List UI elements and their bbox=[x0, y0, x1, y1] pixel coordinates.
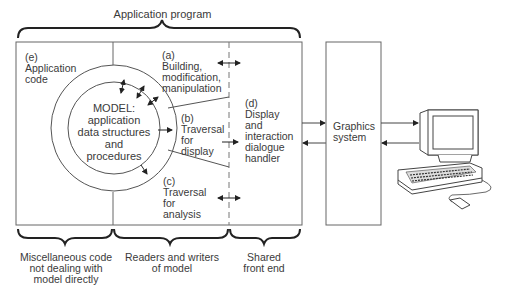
model-line: procedures bbox=[74, 150, 154, 162]
bottom-line: front end bbox=[234, 263, 294, 274]
region-e-label: (e) Application code bbox=[25, 52, 76, 85]
model-line: and bbox=[74, 138, 154, 150]
bottom-label-misc: Miscellaneous code not dealing with mode… bbox=[10, 252, 122, 285]
graphics-system-label: Graphics system bbox=[333, 121, 375, 143]
region-b-label: (b) Traversal for display bbox=[181, 113, 224, 157]
region-b-line: display bbox=[181, 146, 224, 157]
brace-frontend bbox=[230, 229, 300, 244]
region-c-label: (c) Traversal for analysis bbox=[163, 176, 206, 220]
bottom-label-frontend: Shared front end bbox=[234, 252, 294, 274]
title-application-program: Application program bbox=[100, 9, 225, 20]
model-line: MODEL: bbox=[74, 102, 154, 114]
region-d-label: (d) Display and interaction dialogue han… bbox=[245, 98, 293, 164]
brace-misc bbox=[18, 229, 112, 244]
region-c-line: analysis bbox=[163, 209, 206, 220]
top-brace bbox=[18, 20, 300, 38]
model-label: MODEL: application data structures and p… bbox=[74, 102, 154, 162]
bottom-line: model directly bbox=[10, 274, 122, 285]
keyboard-icon bbox=[398, 163, 482, 194]
model-line: data structures bbox=[74, 126, 154, 138]
graphics-line: system bbox=[333, 132, 375, 143]
region-a-line: manipulation bbox=[162, 83, 222, 94]
bottom-line: of model bbox=[118, 263, 226, 274]
region-d-line: handler bbox=[245, 153, 293, 164]
region-e-line: code bbox=[25, 74, 76, 85]
region-a-label: (a) Building, modification, manipulation bbox=[162, 50, 222, 94]
monitor-icon bbox=[420, 110, 478, 162]
model-line: application bbox=[74, 114, 154, 126]
brace-readers bbox=[114, 229, 228, 244]
bottom-label-readers: Readers and writers of model bbox=[118, 252, 226, 274]
